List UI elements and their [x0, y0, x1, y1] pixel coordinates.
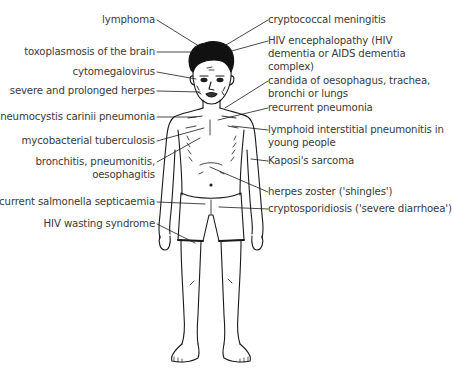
label-tuberculosis: mycobacterial tuberculosis [21, 135, 155, 147]
label-kaposi: Kaposi's sarcoma [268, 155, 354, 167]
label-candida-line2: bronchi or lungs [268, 88, 348, 100]
label-bronchitis-line1: bronchitis, pneumonitis, [36, 156, 155, 168]
label-cryptococcal-meningitis: cryptococcal meningitis [268, 14, 386, 26]
label-pcp: pneumocystis carinii pneumonia [0, 111, 155, 123]
label-bronchitis-line2: oesophagitis [92, 169, 155, 181]
label-salmonella: recurrent salmonella septicaemia [0, 196, 155, 208]
label-lip-line1: lymphoid interstitial pneumonitis in [268, 124, 444, 136]
label-cytomegalovirus: cytomegalovirus [73, 66, 155, 78]
label-hiv-encephalopathy-line1: HIV encephalopathy (HIV [268, 35, 392, 47]
body-outline [159, 42, 263, 362]
label-herpes: severe and prolonged herpes [10, 85, 155, 97]
label-toxoplasmosis: toxoplasmosis of the brain [24, 46, 155, 58]
label-candida-line1: candida of oesophagus, trachea, [268, 75, 430, 87]
label-hiv-encephalopathy-line3: complex) [268, 61, 314, 73]
label-recurrent-pneumonia: recurrent pneumonia [268, 102, 373, 114]
label-herpes-zoster: herpes zoster ('shingles') [268, 186, 392, 198]
label-cryptosporidiosis: cryptosporidiosis ('severe diarrhoea') [268, 203, 452, 215]
label-lip-line2: young people [268, 137, 336, 149]
label-hiv-encephalopathy-line2: dementia or AIDS dementia [268, 48, 406, 60]
label-lymphoma: lymphoma [102, 14, 155, 26]
label-wasting: HIV wasting syndrome [44, 218, 155, 230]
